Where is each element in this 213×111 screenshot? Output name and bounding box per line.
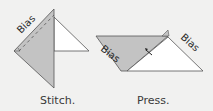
white-triangle [54, 17, 89, 51]
stitch-figure: Bias [14, 9, 89, 88]
caption-press: Press. [137, 94, 169, 107]
diagram-canvas: Bias Bias Bias [0, 0, 213, 111]
corner-tab [162, 30, 169, 36]
press-figure: Bias Bias [96, 30, 203, 71]
caption-stitch: Stitch. [40, 94, 75, 107]
